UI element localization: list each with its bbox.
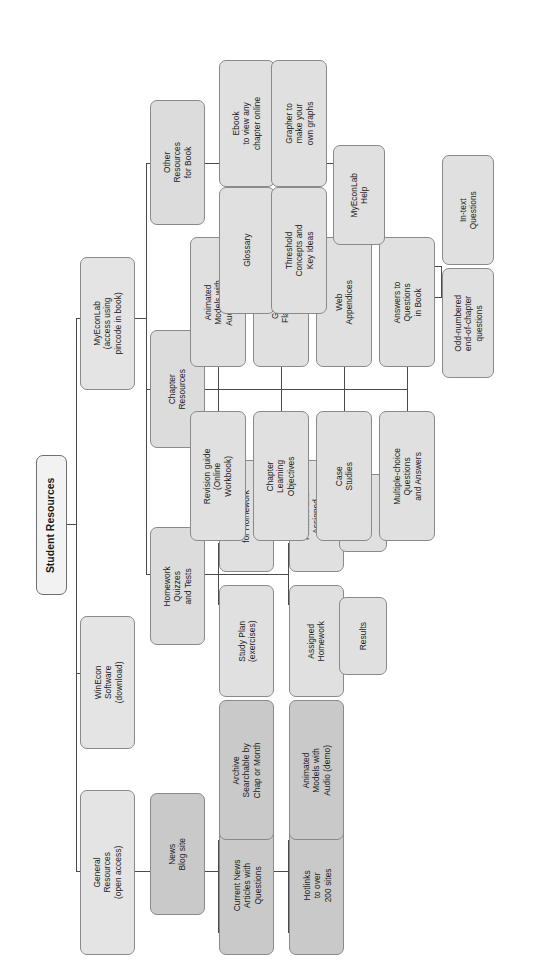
node-answers-to-questions-in-book[interactable]: Answers to Questions in Book <box>379 237 435 367</box>
node-assigned-homework[interactable]: Assigned Homework <box>289 585 344 697</box>
node-odd-numbered-questions[interactable]: Odd-numbered end-of-chapter questions <box>442 268 494 378</box>
node-homework-quizzes-tests[interactable]: Homework Quizzes and Tests <box>150 527 205 645</box>
node-myeconlab-help[interactable]: MyEconLab Help <box>333 145 385 245</box>
node-label: MyEconLab Help <box>349 173 370 218</box>
node-label: News Blog site <box>167 838 188 871</box>
node-myeconlab[interactable]: MyEconLab (access using pincode in book) <box>80 257 135 390</box>
connector-homework-bus-h <box>218 574 289 575</box>
node-animated-models-demo[interactable]: Animated Models with Audio (demo) <box>289 700 344 840</box>
connector-chapres-to-flashcards <box>281 367 282 389</box>
node-ebook[interactable]: Ebook to view any chapter online <box>219 60 275 187</box>
connector-chapres-bus-h <box>218 389 408 390</box>
node-other-resources-for-book[interactable]: Other Resources for Book <box>150 100 205 225</box>
node-label: Grapher to make your own graphs <box>284 102 315 146</box>
connector-chapres-to-revision <box>218 389 219 411</box>
node-student-resources[interactable]: Student Resources <box>36 455 67 595</box>
node-label: Revision guide (Online Workbook) <box>203 448 234 504</box>
node-study-plan[interactable]: Study Plan (exercises) <box>219 585 274 697</box>
node-label: Current News Articles with Questions <box>231 859 262 911</box>
node-label: Chapter Learning Objectives <box>266 456 297 496</box>
node-label: In-text Questions <box>458 191 479 229</box>
node-threshold-concepts[interactable]: Threshold Concepts and Key Ideas <box>271 187 327 314</box>
node-label: Web Appendices <box>334 280 355 324</box>
connector-chapres-to-web-appendices <box>344 367 345 389</box>
node-revision-guide[interactable]: Revision guide (Online Workbook) <box>190 411 246 541</box>
connector-otherres-stub <box>205 163 219 164</box>
connector-news-stub <box>204 871 219 872</box>
node-grapher[interactable]: Grapher to make your own graphs <box>271 60 327 187</box>
connector-chapres-to-animated-ipod <box>218 367 219 389</box>
node-label: Student Resources <box>45 477 58 573</box>
node-in-text-questions[interactable]: In-text Questions <box>442 155 494 265</box>
node-label: Other Resources for Book <box>162 142 193 182</box>
node-news-blog-site[interactable]: News Blog site <box>150 793 205 915</box>
connector-chapres-to-objectives <box>281 389 282 411</box>
connector-chapres-stub <box>205 389 219 390</box>
node-multiple-choice-questions[interactable]: Multiple-choice Questions and Answers <box>379 411 435 541</box>
connector-myeconlab-trunk <box>146 163 147 575</box>
connector-root-trunk <box>76 318 77 871</box>
node-label: Odd-numbered end-of-chapter questions <box>453 295 484 352</box>
diagram-canvas: Student Resources General Resources (ope… <box>0 0 536 979</box>
node-label: Animated Models with Audio (demo) <box>301 745 332 796</box>
connector-homework-stub <box>205 574 219 575</box>
node-winecon-software[interactable]: WinEcon Software (download) <box>80 616 135 749</box>
node-results-homework[interactable]: Results <box>339 597 387 675</box>
node-glossary[interactable]: Glossary <box>219 187 275 314</box>
node-label: Assigned Homework <box>306 621 327 661</box>
node-label: Ebook to view any chapter online <box>232 97 263 150</box>
node-label: Archive Searchable by Chap or Month <box>231 742 262 798</box>
node-label: Threshold Concepts and Key Ideas <box>284 224 315 276</box>
connector-chapres-to-answers <box>407 367 408 389</box>
node-archive-searchable[interactable]: Archive Searchable by Chap or Month <box>219 700 274 840</box>
node-label: Chapter Resources <box>167 369 188 409</box>
node-label: Homework Quizzes and Tests <box>162 566 193 606</box>
node-label: Hotlinks to over 200 sites <box>301 868 332 902</box>
node-general-resources[interactable]: General Resources (open access) <box>80 790 135 955</box>
node-label: Glossary <box>242 234 252 267</box>
node-label: Study Plan (exercises) <box>236 620 257 662</box>
node-chapter-learning-objectives[interactable]: Chapter Learning Objectives <box>253 411 309 541</box>
node-label: MyEconLab (access using pincode in book) <box>92 292 123 354</box>
connector-chapres-to-mcq <box>407 389 408 411</box>
node-label: Results <box>358 622 368 650</box>
node-case-studies[interactable]: Case Studies <box>316 411 372 541</box>
connector-general-to-news <box>135 871 150 872</box>
node-label: WinEcon Software (download) <box>92 662 123 704</box>
connector-chapres-to-case-studies <box>344 389 345 411</box>
node-label: Answers to Questions in Book <box>392 281 423 323</box>
node-label: General Resources (open access) <box>92 846 123 899</box>
node-label: Case Studies <box>334 462 355 490</box>
node-label: Multiple-choice Questions and Answers <box>392 448 423 505</box>
